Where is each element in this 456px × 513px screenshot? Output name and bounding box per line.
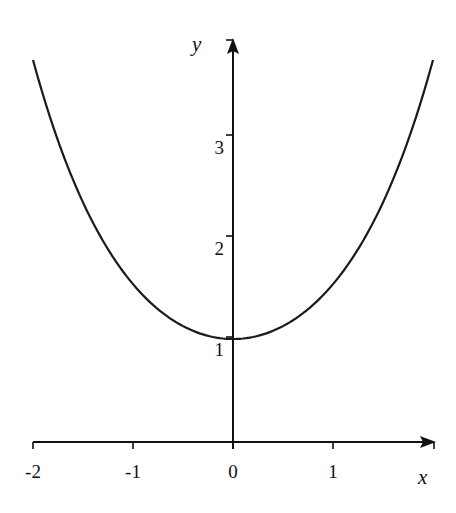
chart: -2-101 123 x y [0,0,456,513]
y-axis-label: y [190,32,202,56]
y-tick-label: 2 [215,238,225,259]
x-axis-label: x [417,465,428,489]
x-ticks: -2-101 [25,442,338,482]
x-tick-label: -1 [125,461,141,482]
y-ticks: 123 [215,135,234,360]
y-tick-label: 3 [215,137,225,158]
x-tick-label: 0 [228,461,238,482]
y-tick-label: 1 [215,339,225,360]
x-tick-label: 1 [328,461,338,482]
axes [33,38,436,449]
x-tick-label: -2 [25,461,41,482]
